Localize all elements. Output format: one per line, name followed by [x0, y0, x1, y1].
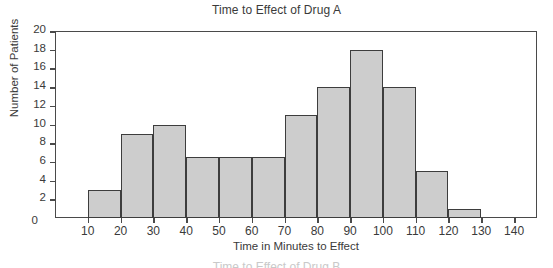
y-tick-mark	[50, 106, 55, 108]
x-tick-mark	[252, 218, 254, 223]
y-tick-mark	[50, 199, 55, 201]
y-tick-label: 2	[0, 191, 46, 203]
x-tick-mark	[383, 218, 385, 223]
cutoff-next-chart-title: Time to Effect of Drug B	[0, 260, 553, 268]
y-axis-label: Number of Patients	[8, 0, 20, 138]
histogram-figure: Time to Effect of Drug A 024681012141618…	[0, 0, 553, 268]
plot-area	[55, 31, 537, 218]
y-tick-label: 12	[0, 98, 46, 110]
y-tick-mark	[50, 181, 55, 183]
x-tick-mark	[219, 218, 221, 223]
y-tick-label: 16	[0, 60, 46, 72]
y-tick-label: 4	[0, 173, 46, 185]
x-tick-mark	[186, 218, 188, 223]
y-tick-mark	[50, 68, 55, 70]
x-tick-label: 140	[494, 224, 534, 238]
x-tick-mark	[416, 218, 418, 223]
y-tick-label: 14	[0, 79, 46, 91]
y-tick-mark	[50, 50, 55, 52]
chart-title: Time to Effect of Drug A	[0, 3, 553, 17]
y-tick-mark	[50, 162, 55, 164]
y-tick-mark	[50, 125, 55, 127]
y-tick-label: 0	[0, 214, 38, 226]
y-tick-mark	[50, 87, 55, 89]
y-tick-label: 18	[0, 42, 46, 54]
x-tick-mark	[121, 218, 123, 223]
x-axis-label: Time in Minutes to Effect	[55, 240, 537, 252]
y-tick-label: 6	[0, 154, 46, 166]
y-tick-mark	[50, 143, 55, 145]
y-tick-label: 8	[0, 135, 46, 147]
x-tick-mark	[88, 218, 90, 223]
x-tick-mark	[317, 218, 319, 223]
x-tick-mark	[514, 218, 516, 223]
x-tick-mark	[350, 218, 352, 223]
y-tick-mark	[50, 31, 55, 33]
x-tick-mark	[481, 218, 483, 223]
x-tick-mark	[153, 218, 155, 223]
y-tick-label: 20	[0, 23, 46, 35]
y-tick-label: 10	[0, 117, 46, 129]
x-tick-mark	[448, 218, 450, 223]
x-tick-mark	[285, 218, 287, 223]
